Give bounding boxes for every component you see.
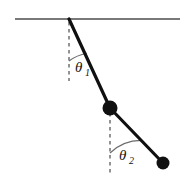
upper-bob: [103, 101, 118, 116]
pendulum-canvas: θ 1 θ 2: [0, 0, 190, 188]
theta-1-symbol: θ: [75, 59, 83, 75]
double-pendulum-figure: θ 1 θ 2: [0, 0, 190, 188]
theta-2-symbol: θ: [119, 147, 127, 163]
lower-bob: [157, 157, 170, 170]
theta-1-subscript: 1: [85, 67, 90, 78]
theta-2-subscript: 2: [129, 155, 134, 166]
lower-rod: [110, 108, 163, 163]
